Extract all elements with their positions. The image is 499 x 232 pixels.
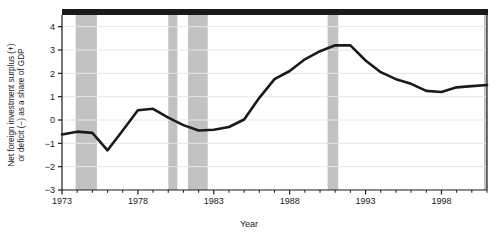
y-axis-title-line1: Net foreign investment surplus (+) xyxy=(7,43,16,166)
y-tick-label--3: −3 xyxy=(45,185,55,195)
chart-background xyxy=(0,0,499,232)
recession-band-1 xyxy=(76,15,97,190)
chart-canvas: 197319781983198819931998 −3−2−101234 Yea… xyxy=(0,0,499,232)
x-tick-label-1978: 1978 xyxy=(128,196,148,206)
y-tick-label-2: 2 xyxy=(50,69,55,79)
x-axis-title: Year xyxy=(240,219,258,229)
top-bar xyxy=(62,9,488,15)
x-tick-label-1998: 1998 xyxy=(431,196,451,206)
x-tick-label-1983: 1983 xyxy=(204,196,224,206)
y-tick-label-3: 3 xyxy=(50,45,55,55)
y-tick-label-1: 1 xyxy=(50,92,55,102)
top-border-bar xyxy=(62,9,488,15)
y-axis-title-line2: or deficit (−) as a share of GDP xyxy=(17,48,26,162)
y-tick-label-0: 0 xyxy=(50,115,55,125)
x-tick-label-1988: 1988 xyxy=(280,196,300,206)
x-tick-label-1973: 1973 xyxy=(52,196,72,206)
net-foreign-investment-chart: 197319781983198819931998 −3−2−101234 Yea… xyxy=(0,0,499,232)
y-tick-label--1: −1 xyxy=(45,139,55,149)
x-tick-label-1993: 1993 xyxy=(356,196,376,206)
recession-band-2 xyxy=(168,15,177,190)
recession-band-4 xyxy=(328,15,339,190)
y-tick-label--2: −2 xyxy=(45,162,55,172)
y-axis-title: Net foreign investment surplus (+) or de… xyxy=(7,43,26,166)
recession-band-3 xyxy=(188,15,208,190)
y-tick-label-4: 4 xyxy=(50,22,55,32)
